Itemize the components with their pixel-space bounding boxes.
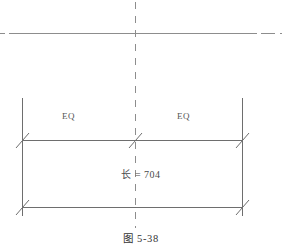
figure-caption: 图 5-38 [123, 230, 158, 245]
equal-segment-label-right: EQ [177, 111, 190, 121]
overall-dimension-label: 长 = 704 [121, 166, 160, 181]
lower-dimension-line-group [16, 200, 249, 215]
technical-drawing-canvas [0, 0, 282, 250]
equal-segment-label-left: EQ [62, 111, 75, 121]
upper-dimension-line-group [16, 133, 249, 148]
figure-container: EQ EQ 长 = 704 图 5-38 [0, 0, 282, 250]
